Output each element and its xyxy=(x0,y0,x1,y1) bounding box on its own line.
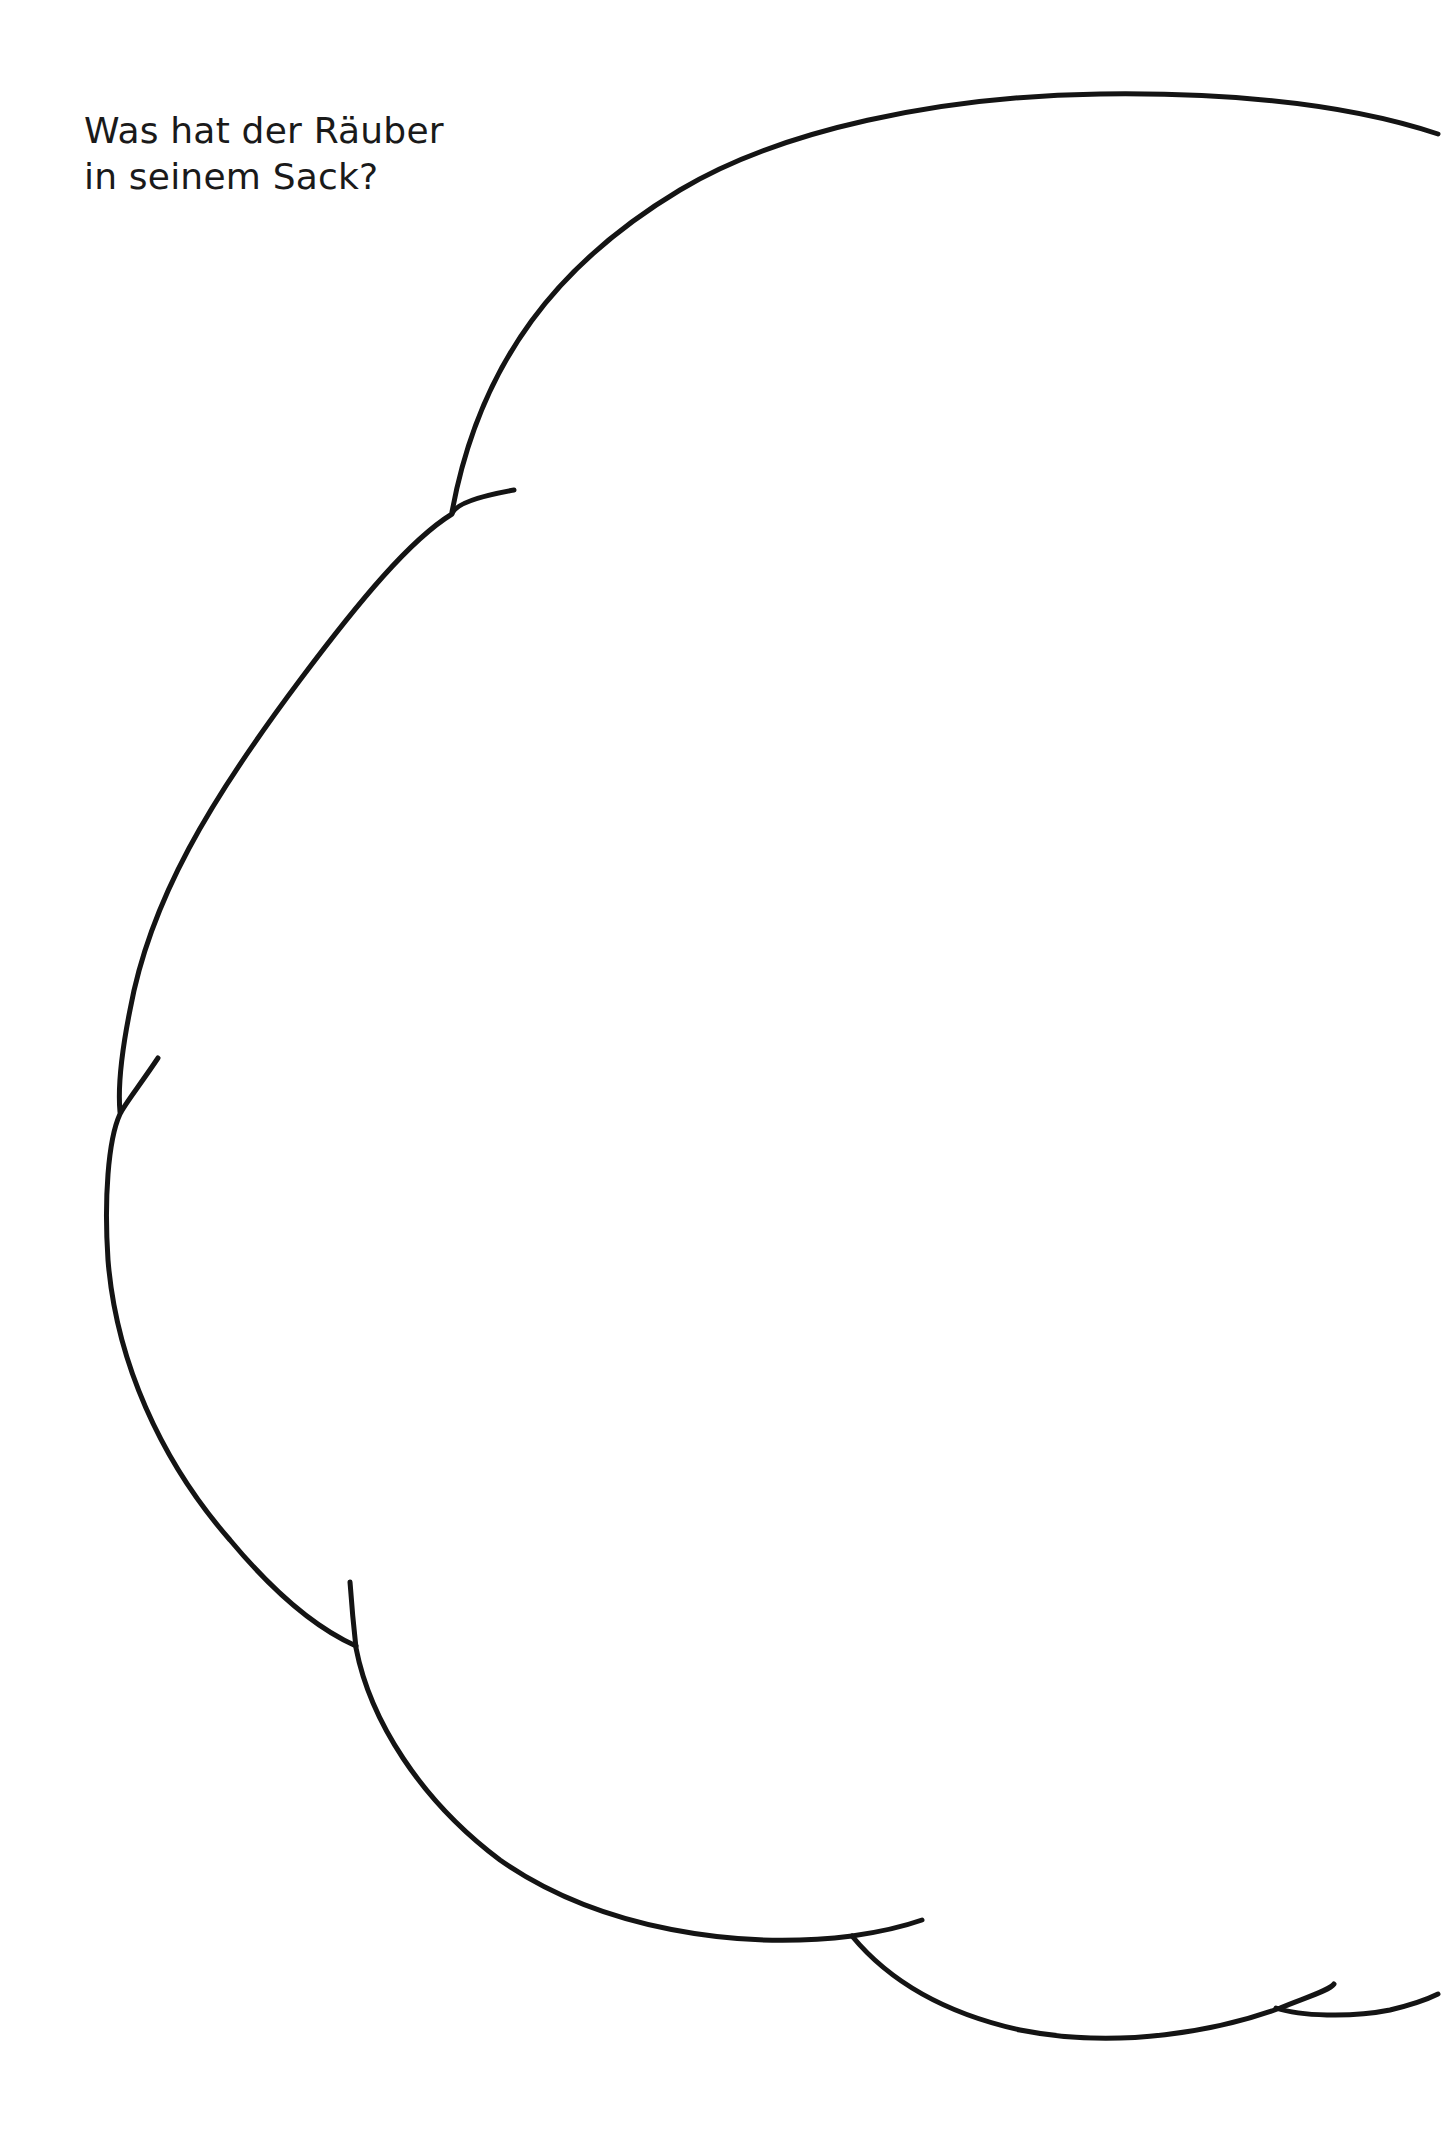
sack-outline-bottom-lobe xyxy=(852,1936,1334,2038)
sack-outline-top-lobe xyxy=(452,94,1438,512)
sack-outline-upper-left-lobe xyxy=(119,490,514,1112)
sack-outline-bottom-left-lobe xyxy=(350,1582,922,1940)
sack-outline-drawing-area[interactable] xyxy=(0,0,1441,2139)
worksheet-page: Was hat der Räuber in seinem Sack? xyxy=(0,0,1441,2139)
sack-outline-left-lobe xyxy=(107,1058,357,1646)
sack-outline-bottom-right-lobe xyxy=(1276,1994,1438,2015)
